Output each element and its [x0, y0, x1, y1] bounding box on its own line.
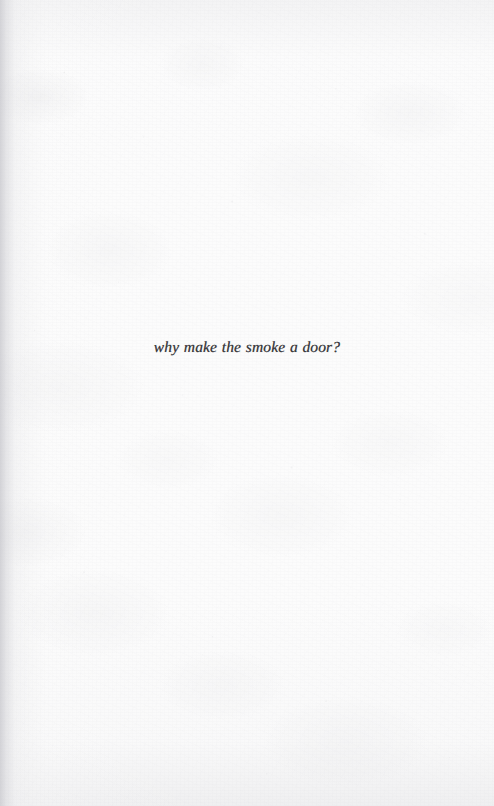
book-page: why make the smoke a door? — [0, 0, 494, 806]
body-text-line: why make the smoke a door? — [154, 338, 340, 358]
paper-texture-speckle — [0, 0, 494, 806]
page-text-block: why make the smoke a door? — [0, 338, 494, 358]
binding-gutter-shadow — [0, 0, 30, 806]
